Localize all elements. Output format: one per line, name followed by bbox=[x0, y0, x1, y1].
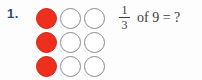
empty-circle bbox=[84, 32, 105, 53]
fraction-numerator: 1 bbox=[122, 4, 128, 16]
filled-circle bbox=[36, 56, 57, 77]
fraction-denominator: 3 bbox=[122, 19, 128, 31]
problem-number: 1. bbox=[7, 6, 19, 21]
expression-text: of 9 = ? bbox=[137, 10, 180, 26]
expression: 1 3 of 9 = ? bbox=[119, 4, 180, 31]
filled-circle bbox=[36, 8, 57, 29]
fraction: 1 3 bbox=[119, 4, 130, 31]
counter-circle-grid bbox=[36, 8, 105, 77]
empty-circle bbox=[60, 8, 81, 29]
empty-circle bbox=[84, 56, 105, 77]
empty-circle bbox=[60, 32, 81, 53]
filled-circle bbox=[36, 32, 57, 53]
empty-circle bbox=[60, 56, 81, 77]
empty-circle bbox=[84, 8, 105, 29]
